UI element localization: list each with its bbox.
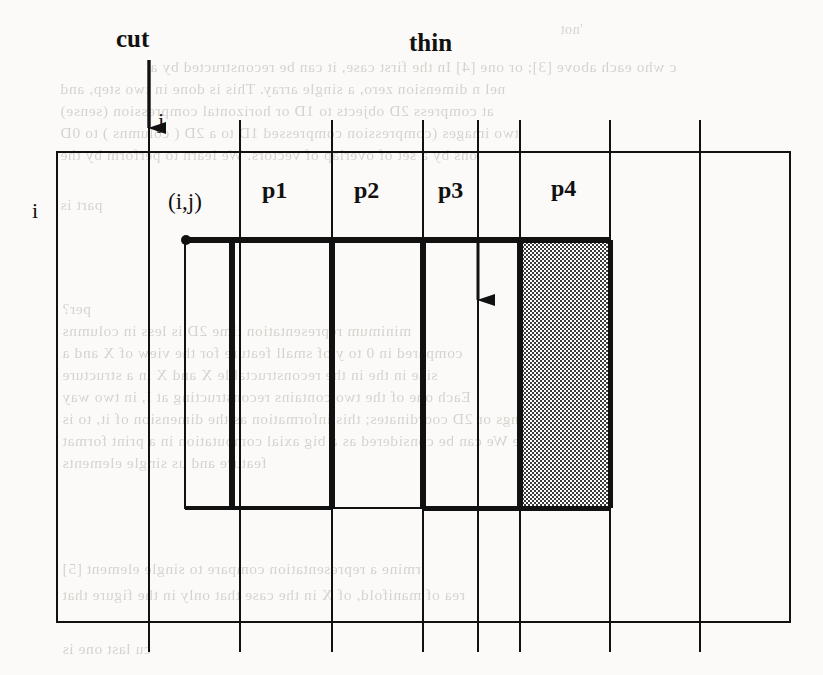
origin-dot: [181, 235, 191, 245]
grid-diagram: [0, 0, 823, 675]
partition-label-p4: p4: [551, 176, 576, 200]
column-index-label: j: [158, 110, 164, 132]
cut-label: cut: [116, 26, 149, 51]
thin-label: thin: [409, 30, 452, 55]
scanned-figure-page: 'not c who each above [3]; or one [4] In…: [0, 0, 823, 675]
partition-label-p3: p3: [438, 178, 463, 202]
cell-coordinate-label: (i,j): [168, 190, 202, 213]
shaded-region-p4: [520, 240, 610, 508]
row-index-label: i: [32, 200, 38, 222]
partition-label-p2: p2: [354, 178, 379, 202]
partition-label-p1: p1: [262, 178, 287, 202]
